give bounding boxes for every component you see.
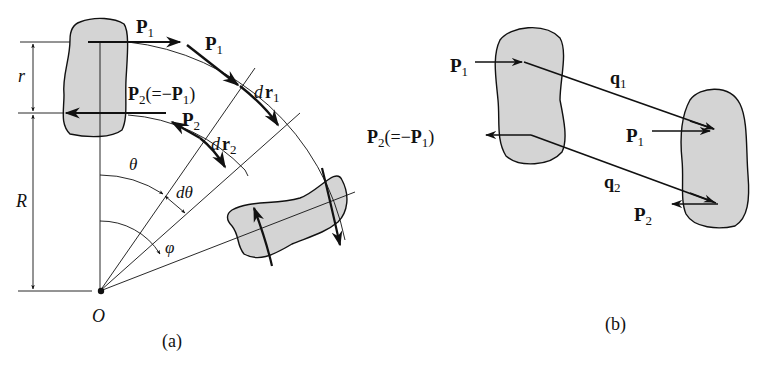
- angle-theta-arc: [100, 175, 163, 194]
- caption-a: (a): [162, 331, 182, 352]
- origin-point: [98, 288, 104, 294]
- label-P1-tangent: P1: [205, 33, 223, 57]
- label-phi: φ: [165, 238, 174, 257]
- label-b-P1-right: P1: [626, 125, 644, 149]
- angle-phi-arc: [100, 221, 160, 254]
- label-b-P1-left: P1: [450, 55, 468, 79]
- label-r: r: [18, 66, 26, 86]
- figure-b: P1 P2(=−P1) q1 q2 P1 P2 (b): [367, 28, 749, 335]
- rigid-body-initial: [63, 18, 127, 136]
- rigid-body-right: [681, 89, 749, 228]
- label-q2: q2: [604, 172, 621, 195]
- diagram-canvas: P1 P1 P2(=−P1) P2 dr1 dr2 r R θ dθ φ O (…: [0, 0, 768, 366]
- label-dr2: dr2: [211, 134, 237, 157]
- caption-b: (b): [605, 314, 626, 335]
- label-P1-top: P1: [136, 16, 154, 40]
- label-origin-O: O: [92, 306, 105, 326]
- label-b-P2-right: P2: [634, 204, 652, 228]
- label-dr1: dr1: [254, 82, 280, 105]
- rigid-body-rotated: [228, 176, 347, 258]
- label-P2-equals-minus-P1: P2(=−P1): [128, 84, 195, 107]
- label-dtheta: dθ: [176, 183, 193, 202]
- label-b-P2-equals-minus-P1: P2(=−P1): [367, 127, 434, 150]
- figure-a: P1 P1 P2(=−P1) P2 dr1 dr2 r R θ dθ φ O (…: [15, 16, 355, 352]
- label-theta: θ: [129, 155, 137, 174]
- label-R: R: [15, 191, 27, 211]
- ray-phi: [100, 192, 355, 291]
- label-q1: q1: [610, 68, 627, 91]
- label-P2-tangent: P2: [182, 109, 200, 133]
